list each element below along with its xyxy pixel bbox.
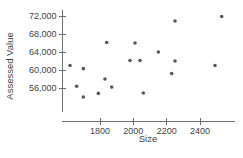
data-point [170, 72, 174, 76]
data-point [138, 59, 142, 63]
x-axis-title: Size [139, 133, 157, 144]
data-point [75, 84, 79, 88]
scatter-chart: 56,00060,00064,00068,00072,000 180020002… [0, 0, 243, 158]
data-point [133, 41, 137, 45]
data-point [220, 15, 224, 19]
data-point [173, 19, 177, 23]
y-axis-title: Assessed Value [4, 32, 15, 99]
y-tick-label: 56,000 [29, 83, 57, 93]
data-point [173, 59, 177, 63]
x-tick-label: 1800 [90, 126, 110, 136]
y-tick-label: 72,000 [29, 11, 57, 21]
data-point [142, 91, 146, 95]
y-tick-label: 68,000 [29, 29, 57, 39]
data-point [82, 67, 86, 71]
y-tick-label-group: 56,00060,00064,00068,00072,000 [29, 11, 57, 93]
y-tick-label: 60,000 [29, 65, 57, 75]
data-point [82, 95, 86, 99]
data-point-group [68, 15, 223, 99]
x-tick-label: 2200 [157, 126, 177, 136]
data-point [68, 64, 72, 68]
data-point [128, 59, 132, 63]
data-point [103, 77, 107, 81]
data-point [157, 50, 161, 54]
data-point [110, 85, 114, 89]
plot-area: 56,00060,00064,00068,00072,000 180020002… [0, 0, 243, 158]
data-point [213, 64, 217, 68]
y-tick-label: 64,000 [29, 47, 57, 57]
data-point [97, 92, 101, 96]
data-point [105, 41, 109, 45]
x-tick-label: 2400 [190, 126, 210, 136]
